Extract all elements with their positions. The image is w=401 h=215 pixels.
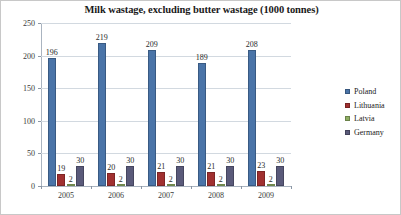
bar-latvia-2007 [167,184,175,186]
bar-value-lithuania-2009: 23 [257,161,265,170]
x-tick-mark-0 [41,186,42,189]
bar-latvia-2005 [67,184,75,186]
legend-swatch-germany [345,130,350,135]
y-tick-label-150: 150 [1,84,35,93]
bar-poland-2009 [248,50,256,186]
bar-value-latvia-2009: 2 [269,175,273,184]
bar-latvia-2009 [267,184,275,186]
y-tick-mark-150 [38,88,41,89]
legend-item-germany[interactable]: Germany [345,128,385,137]
legend-item-lithuania[interactable]: Lithuania [345,101,385,110]
bar-poland-2007 [148,50,156,186]
bar-value-germany-2005: 30 [76,156,84,165]
bar-lithuania-2009 [257,171,265,186]
bar-latvia-2006 [117,184,125,186]
bar-value-lithuania-2006: 20 [107,163,115,172]
legend-label-lithuania: Lithuania [354,101,385,110]
legend-swatch-lithuania [345,103,350,108]
bar-value-latvia-2007: 2 [169,175,173,184]
bar-lithuania-2006 [107,173,115,186]
x-tick-mark-3 [191,186,192,189]
bar-poland-2005 [48,58,56,186]
bar-germany-2006 [126,166,134,186]
plot-area: 050100150200250 196192302192023020921230… [41,23,291,186]
bar-value-lithuania-2008: 21 [207,162,215,171]
bar-value-poland-2009: 208 [246,40,258,49]
legend-item-latvia[interactable]: Latvia [345,114,385,123]
chart-title: Milk wastage, excluding butter wastage (… [1,4,401,15]
y-tick-mark-100 [38,121,41,122]
x-tick-label-2008: 2008 [208,191,224,200]
bar-value-germany-2007: 30 [176,156,184,165]
legend-label-germany: Germany [354,128,384,137]
y-tick-mark-200 [38,56,41,57]
bar-value-poland-2007: 209 [146,40,158,49]
bar-lithuania-2008 [207,172,215,186]
x-tick-mark-2 [141,186,142,189]
legend: PolandLithuaniaLatviaGermany [345,87,385,137]
legend-label-poland: Poland [354,87,376,96]
bar-germany-2005 [76,166,84,186]
gridline-0 [41,186,291,187]
x-tick-label-2007: 2007 [158,191,174,200]
y-tick-mark-50 [38,153,41,154]
bar-value-poland-2008: 189 [196,53,208,62]
bar-value-latvia-2005: 2 [69,175,73,184]
bar-value-germany-2008: 30 [226,156,234,165]
x-tick-mark-1 [91,186,92,189]
bar-value-germany-2006: 30 [126,156,134,165]
bar-value-latvia-2006: 2 [119,175,123,184]
bar-value-lithuania-2007: 21 [157,162,165,171]
y-tick-mark-250 [38,23,41,24]
bar-value-germany-2009: 30 [276,156,284,165]
x-tick-mark-4 [241,186,242,189]
legend-swatch-poland [345,89,350,94]
y-tick-label-100: 100 [1,116,35,125]
bar-germany-2009 [276,166,284,186]
y-tick-label-0: 0 [1,182,35,191]
legend-swatch-latvia [345,116,350,121]
bar-poland-2006 [98,43,106,186]
y-tick-label-200: 200 [1,51,35,60]
bar-value-poland-2005: 196 [46,48,58,57]
x-tick-label-2006: 2006 [108,191,124,200]
chart-container: Milk wastage, excluding butter wastage (… [0,0,401,215]
bar-value-latvia-2008: 2 [219,175,223,184]
bar-lithuania-2007 [157,172,165,186]
x-tick-label-2005: 2005 [58,191,74,200]
bar-lithuania-2005 [57,174,65,186]
x-tick-mark-end [291,186,292,189]
bar-value-lithuania-2005: 19 [57,164,65,173]
legend-item-poland[interactable]: Poland [345,87,385,96]
bar-latvia-2008 [217,184,225,186]
legend-label-latvia: Latvia [354,114,374,123]
y-tick-label-250: 250 [1,19,35,28]
gridline-250 [41,23,291,24]
bar-poland-2008 [198,63,206,186]
bar-germany-2008 [226,166,234,186]
bar-germany-2007 [176,166,184,186]
bar-value-poland-2006: 219 [96,33,108,42]
y-tick-label-50: 50 [1,149,35,158]
x-tick-label-2009: 2009 [258,191,274,200]
